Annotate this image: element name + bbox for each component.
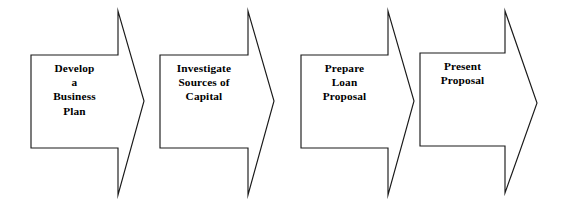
step-label-prepare-loan-proposal: Prepare Loan Proposal [300,61,389,104]
step-label-investigate-sources-of-capital: Investigate Sources of Capital [158,61,250,104]
chevron-arrow-4[interactable] [420,11,537,193]
process-flow-diagram: Develop a Business Plan Investigate Sour… [0,0,562,205]
step-label-develop-a-business-plan: Develop a Business Plan [31,61,118,118]
step-label-present-proposal: Present Proposal [419,59,506,87]
